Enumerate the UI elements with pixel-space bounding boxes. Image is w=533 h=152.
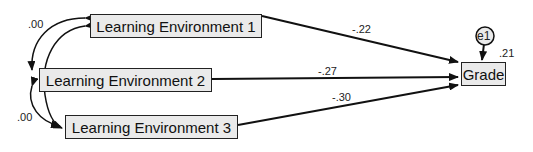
- cov-le1-le2-value: .00: [28, 18, 43, 30]
- cov-le2-le3-value: .00: [17, 111, 32, 123]
- coef-le1-grade: -.22: [352, 23, 371, 35]
- coef-le2-grade: -.27: [318, 65, 337, 77]
- path-le2-grade: [212, 77, 458, 79]
- path-e1-grade: [482, 44, 484, 60]
- path-diagram: Learning Environment 1 Learning Environm…: [0, 0, 533, 152]
- node-learning-environment-3: Learning Environment 3: [65, 115, 238, 139]
- node-learning-environment-2: Learning Environment 2: [39, 68, 212, 92]
- coef-le3-grade: -.30: [332, 91, 351, 103]
- node-e1-label: e1: [477, 29, 490, 43]
- r-squared-grade: .21: [499, 47, 514, 59]
- node-grade: Grade: [461, 62, 506, 86]
- node-learning-environment-1: Learning Environment 1: [90, 14, 262, 38]
